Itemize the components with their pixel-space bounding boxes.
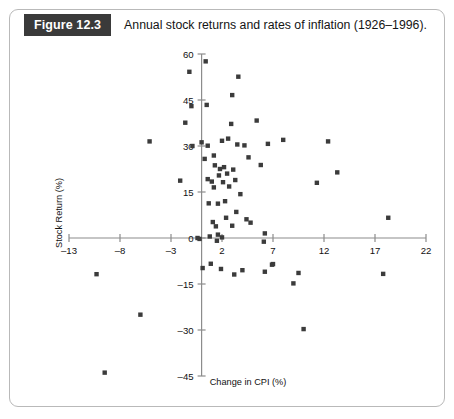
data-point [215, 239, 219, 243]
data-point [254, 118, 258, 122]
data-point [259, 163, 263, 167]
y-tick-label: 0 [188, 233, 193, 244]
data-point [212, 153, 216, 157]
data-point [230, 93, 234, 97]
data-point [225, 171, 229, 175]
data-point [197, 237, 201, 241]
y-tick-label: –45 [178, 371, 194, 382]
data-point [206, 177, 210, 181]
data-point [296, 271, 300, 275]
data-point [208, 234, 212, 238]
data-point [213, 163, 217, 167]
data-point [202, 157, 206, 161]
data-point [190, 144, 194, 148]
x-tick-group: –13–8–327121722 [61, 234, 431, 256]
data-point [226, 136, 230, 140]
data-point [266, 142, 270, 146]
x-tick-label: 22 [421, 245, 432, 256]
data-point [187, 70, 191, 74]
data-point [248, 220, 252, 224]
data-point [232, 272, 236, 276]
data-point [335, 170, 339, 174]
data-point [203, 59, 207, 63]
scatter-plot: –13–8–327121722 –45–30–15015304560 Chang… [0, 0, 454, 419]
data-point [315, 181, 319, 185]
data-point [230, 224, 234, 228]
data-point [281, 138, 285, 142]
data-point [103, 370, 107, 374]
y-tick-label: 45 [183, 95, 194, 106]
data-point [246, 155, 250, 159]
data-point [205, 103, 209, 107]
data-point [231, 167, 235, 171]
data-point [218, 167, 222, 171]
x-tick-label: –8 [115, 245, 126, 256]
x-axis-title: Change in CPI (%) [210, 377, 287, 387]
data-point [236, 74, 240, 78]
data-point [229, 122, 233, 126]
data-point [234, 210, 238, 214]
y-tick-label: 60 [183, 49, 194, 60]
data-point [189, 104, 193, 108]
data-point [209, 262, 213, 266]
data-point [200, 266, 204, 270]
data-point [217, 173, 221, 177]
x-tick-label: –3 [166, 245, 177, 256]
data-point [262, 239, 266, 243]
data-point [233, 178, 237, 182]
x-tick-label: 17 [370, 245, 381, 256]
data-point [235, 142, 239, 146]
data-point [238, 192, 242, 196]
data-point [242, 143, 246, 147]
data-point [220, 139, 224, 143]
data-point [199, 140, 203, 144]
data-point [207, 201, 211, 205]
data-point [223, 199, 227, 203]
data-point [301, 327, 305, 331]
data-point [214, 224, 218, 228]
data-point [271, 262, 275, 266]
data-point [227, 184, 231, 188]
data-point [216, 232, 220, 236]
data-point [291, 281, 295, 285]
data-point [147, 139, 151, 143]
data-point [222, 165, 226, 169]
data-point [326, 139, 330, 143]
x-tick-label: 7 [270, 245, 275, 256]
y-tick-label: –30 [178, 325, 194, 336]
data-point [240, 268, 244, 272]
x-tick-label: 12 [319, 245, 330, 256]
data-point [206, 143, 210, 147]
data-point [244, 217, 248, 221]
x-tick-label: 2 [219, 245, 224, 256]
data-point-group [94, 59, 390, 375]
data-point [221, 180, 225, 184]
y-tick-label: –15 [178, 279, 194, 290]
data-point [212, 185, 216, 189]
data-point [211, 220, 215, 224]
data-point [224, 216, 228, 220]
data-point [386, 216, 390, 220]
data-point [263, 270, 267, 274]
data-point [219, 267, 223, 271]
data-point [263, 231, 267, 235]
chart-svg: –13–8–327121722 –45–30–15015304560 Chang… [0, 0, 454, 419]
data-point [183, 120, 187, 124]
data-point [381, 272, 385, 276]
data-point [94, 272, 98, 276]
y-tick-label: 15 [183, 187, 194, 198]
data-point [216, 201, 220, 205]
data-point [178, 178, 182, 182]
y-axis-title: Stock Return (%) [54, 178, 64, 248]
data-point [138, 312, 142, 316]
figure-page: Figure 12.3 Annual stock returns and rat… [0, 0, 454, 419]
data-point [210, 179, 214, 183]
data-point [220, 235, 224, 239]
axes-group [69, 54, 426, 376]
